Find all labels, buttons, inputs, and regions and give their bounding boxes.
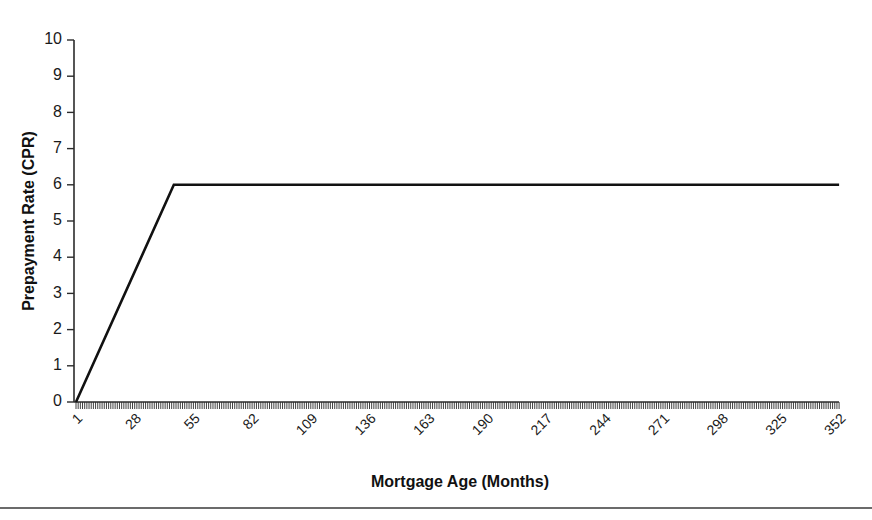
y-tick-label: 10 (44, 30, 62, 47)
y-tick-label: 0 (53, 392, 62, 409)
y-tick-label: 4 (53, 247, 62, 264)
chart-background (0, 0, 872, 520)
y-axis-title: Prepayment Rate (CPR) (20, 131, 37, 311)
x-axis-title: Mortgage Age (Months) (371, 473, 549, 490)
y-tick-label: 6 (53, 175, 62, 192)
y-tick-label: 9 (53, 66, 62, 83)
prepayment-ramp-chart: Prepayment Rate (CPR) 10 9 8 7 6 5 (0, 0, 872, 520)
chart-figure: Prepayment Rate (CPR) 10 9 8 7 6 5 (0, 0, 872, 520)
y-tick-label: 3 (53, 284, 62, 301)
y-tick-label: 8 (53, 103, 62, 120)
y-tick-label: 1 (53, 356, 62, 373)
y-tick-label: 5 (53, 211, 62, 228)
y-tick-label: 2 (53, 320, 62, 337)
y-tick-label: 7 (53, 139, 62, 156)
